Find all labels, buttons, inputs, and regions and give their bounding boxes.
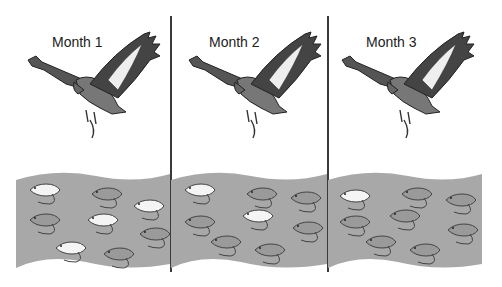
panel-month-3: Month 3 bbox=[328, 0, 502, 287]
hawk-icon bbox=[340, 28, 476, 144]
grass-field bbox=[171, 168, 327, 272]
grass-field bbox=[16, 168, 170, 272]
grass-field bbox=[328, 168, 484, 272]
panel-month-2: Month 2 bbox=[171, 0, 327, 287]
hawk-icon bbox=[187, 28, 323, 144]
hawk-icon bbox=[26, 28, 162, 144]
panel-month-1: Month 1 bbox=[0, 0, 170, 287]
